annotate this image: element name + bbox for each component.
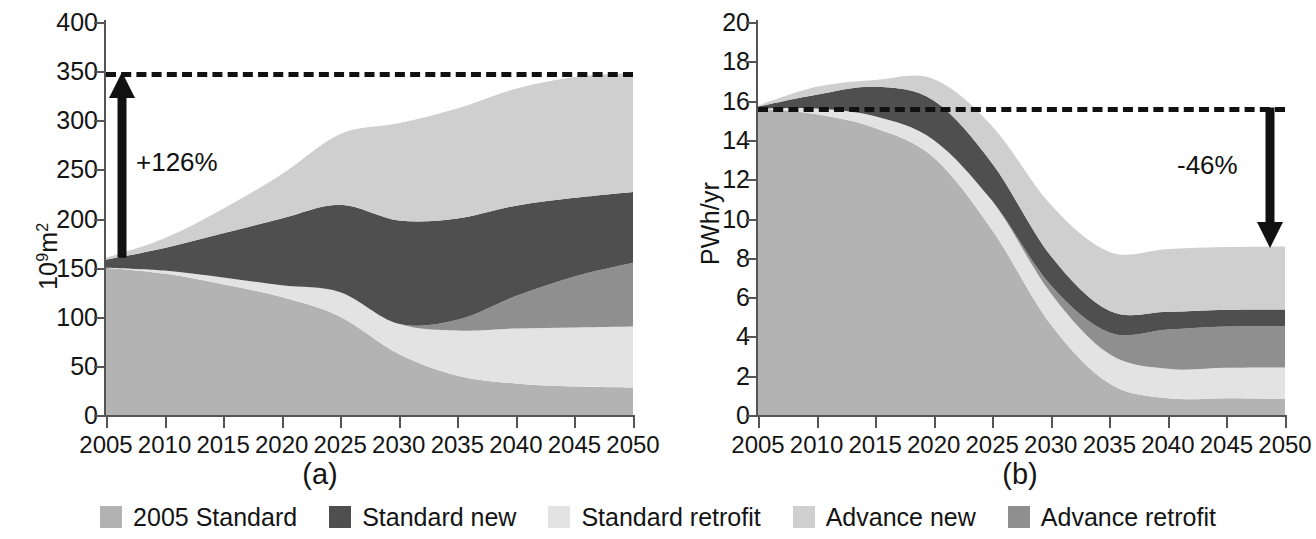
reference-line-b <box>758 107 1285 112</box>
legend-label: Advance retrofit <box>1041 505 1216 530</box>
legend-item[interactable]: 2005 Standard <box>100 505 297 530</box>
figure-stacked-area-charts: 109m2 050100150200250300350400 200520102… <box>0 0 1316 539</box>
stacked-area-plot-b <box>660 0 1316 495</box>
panel-caption-b: (b) <box>970 460 1070 489</box>
legend-label: Advance new <box>826 505 976 530</box>
annotation-arrow-down <box>1257 107 1283 247</box>
legend-swatch-icon <box>329 506 351 528</box>
panel-a: 109m2 050100150200250300350400 200520102… <box>0 0 660 495</box>
annotation-a: +126% <box>136 147 218 178</box>
legend-swatch-icon <box>548 506 570 528</box>
legend-label: 2005 Standard <box>133 505 297 530</box>
annotation-arrow-up <box>109 72 135 258</box>
reference-line-a <box>106 72 633 77</box>
legend-item[interactable]: Standard retrofit <box>548 505 760 530</box>
legend-item[interactable]: Standard new <box>329 505 516 530</box>
legend: 2005 StandardStandard newStandard retrof… <box>0 495 1316 539</box>
legend-swatch-icon <box>793 506 815 528</box>
legend-item[interactable]: Advance retrofit <box>1008 505 1216 530</box>
legend-label: Standard retrofit <box>581 505 760 530</box>
panel-caption-a: (a) <box>270 460 370 489</box>
legend-swatch-icon <box>1008 506 1030 528</box>
panel-b: PWh/yr 02468101214161820 200520102015202… <box>660 0 1316 495</box>
legend-swatch-icon <box>100 506 122 528</box>
legend-item[interactable]: Advance new <box>793 505 976 530</box>
annotation-b: -46% <box>1177 150 1238 181</box>
legend-label: Standard new <box>362 505 516 530</box>
